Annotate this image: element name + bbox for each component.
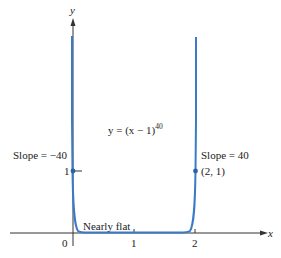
- point-2-1: [193, 169, 198, 174]
- plot-canvas: y x 0 1 2 1 Slope = −40 Slope = 40 (2, 1…: [0, 0, 281, 258]
- x-tick-label-1: 1: [131, 237, 137, 249]
- x-tick-label-2: 2: [192, 237, 198, 249]
- x-axis-label: x: [267, 227, 273, 239]
- equation-exponent: 40: [155, 122, 163, 131]
- y-axis-label: y: [69, 4, 75, 16]
- equation-prefix: y = (x − 1): [108, 124, 156, 137]
- slope-left-annotation: Slope = −40: [13, 149, 67, 161]
- x-tick-label-0: 0: [62, 237, 68, 249]
- y-tick-label-1: 1: [64, 165, 70, 177]
- equation-label: y = (x − 1)40: [108, 122, 163, 137]
- x-axis-arrow-icon: [260, 231, 268, 236]
- point-0-1: [71, 169, 76, 174]
- y-axis-arrow-icon: [71, 18, 76, 26]
- point-right-label: (2, 1): [201, 165, 225, 178]
- nearly-flat-annotation: Nearly flat: [83, 220, 130, 232]
- slope-right-annotation: Slope = 40: [201, 149, 249, 161]
